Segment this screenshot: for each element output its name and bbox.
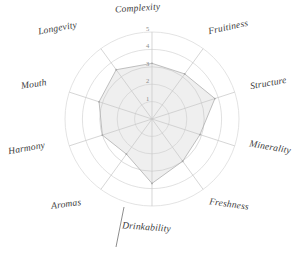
data-point-structure [214,98,216,100]
data-point-freshness [182,160,184,162]
tick-label-5: 5 [146,26,149,33]
radar-chart-canvas [0,0,308,258]
data-point-drinkability [151,182,153,184]
tick-label-3: 3 [146,61,149,68]
tick-label-4: 4 [146,43,149,50]
data-point-aromas [126,153,128,155]
data-point-longevity [115,69,117,71]
data-point-minerality [199,134,201,136]
radar-data-polygon [99,63,215,183]
data-point-harmony [101,134,103,136]
data-point-fruitiness [184,73,186,75]
radar-chart: 5 4 3 2 1 Complexity Fruitiness Structur… [0,0,308,258]
data-point-mouth [98,101,100,103]
data-point-complexity [151,62,153,64]
tick-label-2: 2 [146,78,149,85]
tick-label-1: 1 [146,96,149,103]
